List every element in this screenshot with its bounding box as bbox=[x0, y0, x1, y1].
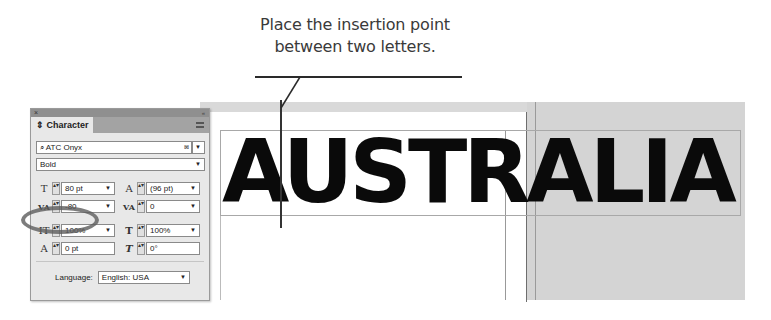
baseline-shift-input[interactable]: 0 pt bbox=[61, 242, 115, 255]
leading-stepper[interactable]: ▴▾ bbox=[137, 182, 145, 195]
callout-line-2: between two letters. bbox=[250, 36, 460, 58]
tab-character-label: Character bbox=[47, 120, 89, 130]
leading-input[interactable]: (96 pt) ▼ bbox=[146, 182, 200, 195]
skew-input[interactable]: 0° bbox=[146, 242, 200, 255]
chevron-down-icon: ▼ bbox=[190, 183, 196, 194]
headline-text[interactable]: AUSTRALIA bbox=[222, 127, 733, 217]
close-icon[interactable]: × bbox=[34, 109, 38, 117]
insertion-point-cursor bbox=[280, 100, 282, 228]
font-family-input[interactable]: ⌕ ATC Onyx ⊠ bbox=[36, 141, 192, 154]
search-icon: ⌕ bbox=[40, 143, 44, 152]
baseline-shift-stepper[interactable]: ▴▾ bbox=[52, 242, 60, 255]
character-panel[interactable]: × « ⇕ Character ⌕ ATC Onyx ⊠ ▼ Bold ▼ T … bbox=[30, 108, 210, 301]
horizontal-scale-stepper[interactable]: ▴▾ bbox=[137, 224, 145, 237]
chevron-down-icon: ▼ bbox=[105, 201, 111, 212]
font-family-dropdown[interactable]: ▼ bbox=[192, 141, 205, 154]
chevron-down-icon: ▼ bbox=[180, 272, 186, 283]
tab-character[interactable]: ⇕ Character bbox=[31, 117, 93, 133]
font-family-value: ATC Onyx bbox=[46, 143, 82, 152]
leading-icon: A bbox=[121, 183, 137, 194]
font-size-value: 80 pt bbox=[65, 184, 83, 193]
tracking-stepper[interactable]: ▴▾ bbox=[137, 200, 145, 213]
language-row: Language: English: USA ▼ bbox=[55, 271, 190, 284]
tracking-input[interactable]: 0 ▼ bbox=[146, 200, 200, 213]
skew-value: 0° bbox=[150, 244, 158, 253]
tab-arrows-icon: ⇕ bbox=[36, 120, 47, 130]
kerning-highlight-circle bbox=[21, 206, 99, 234]
clear-icon[interactable]: ⊠ bbox=[184, 142, 189, 153]
chevron-down-icon: ▼ bbox=[105, 183, 111, 194]
chevron-down-icon: ▼ bbox=[195, 159, 201, 170]
font-style-row: Bold ▼ bbox=[36, 158, 205, 171]
tracking-icon: VA bbox=[121, 202, 137, 212]
chevron-down-icon: ▼ bbox=[190, 225, 196, 236]
font-size-input[interactable]: 80 pt ▼ bbox=[61, 182, 115, 195]
skew-icon: T bbox=[121, 243, 137, 254]
tracking-value: 0 bbox=[150, 202, 154, 211]
baseline-shift-icon: A bbox=[36, 243, 52, 254]
panel-divider bbox=[36, 261, 204, 262]
font-size-stepper[interactable]: ▴▾ bbox=[52, 182, 60, 195]
language-label: Language: bbox=[55, 273, 93, 282]
language-value: English: USA bbox=[102, 273, 149, 282]
callout-line-1: Place the insertion point bbox=[250, 14, 460, 36]
callout-underline bbox=[255, 76, 462, 78]
callout-annotation: Place the insertion point between two le… bbox=[250, 14, 460, 58]
baseline-shift-value: 0 pt bbox=[65, 244, 78, 253]
font-size-icon: T bbox=[36, 183, 52, 194]
panel-tabbar: ⇕ Character bbox=[31, 117, 209, 133]
collapse-icon[interactable]: « bbox=[202, 109, 205, 117]
chevron-down-icon: ▼ bbox=[195, 142, 201, 153]
baseline-skew-row: A ▴▾ 0 pt T ▴▾ 0° bbox=[36, 242, 200, 255]
font-style-value: Bold bbox=[40, 160, 56, 169]
skew-stepper[interactable]: ▴▾ bbox=[137, 242, 145, 255]
chevron-down-icon: ▼ bbox=[190, 201, 196, 212]
font-family-row: ⌕ ATC Onyx ⊠ ▼ bbox=[36, 141, 205, 154]
panel-menu-icon[interactable] bbox=[196, 122, 204, 128]
horizontal-scale-icon: T bbox=[121, 225, 137, 236]
chevron-down-icon: ▼ bbox=[105, 225, 111, 236]
horizontal-scale-value: 100% bbox=[150, 226, 170, 235]
size-leading-row: T ▴▾ 80 pt ▼ A ▴▾ (96 pt) ▼ bbox=[36, 182, 200, 195]
font-style-select[interactable]: Bold ▼ bbox=[36, 158, 205, 171]
horizontal-scale-input[interactable]: 100% ▼ bbox=[146, 224, 200, 237]
leading-value: (96 pt) bbox=[150, 184, 173, 193]
panel-titlebar[interactable]: × « bbox=[31, 109, 209, 117]
language-select[interactable]: English: USA ▼ bbox=[98, 271, 190, 284]
